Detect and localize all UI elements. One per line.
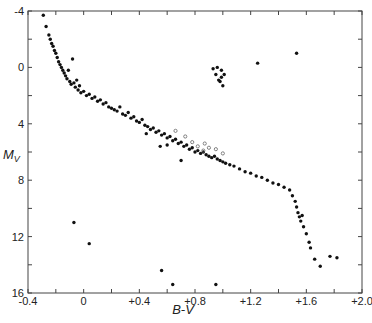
data-point xyxy=(99,98,102,101)
data-point xyxy=(266,179,269,182)
data-point xyxy=(152,126,155,129)
data-point xyxy=(47,33,50,36)
data-point xyxy=(71,57,74,60)
data-point xyxy=(260,176,263,179)
data-point xyxy=(185,143,188,146)
data-point xyxy=(224,162,227,165)
data-point xyxy=(277,183,280,186)
data-point xyxy=(196,149,199,152)
data-point xyxy=(127,111,130,114)
data-point xyxy=(302,225,305,228)
data-point xyxy=(44,25,47,28)
open-data-point xyxy=(196,145,199,148)
y-axis-title-m: M xyxy=(3,147,14,162)
y-tick-label: -4 xyxy=(14,5,24,17)
y-axis-title-sub: V xyxy=(14,154,21,164)
data-point xyxy=(146,125,149,128)
data-point xyxy=(160,269,163,272)
data-point xyxy=(232,164,235,167)
data-point xyxy=(51,45,54,48)
data-point xyxy=(220,76,223,79)
data-point xyxy=(294,200,297,203)
y-tick-label: 0 xyxy=(18,61,24,73)
x-tick-label: +2.0 xyxy=(351,295,372,307)
ticks: -0.40+0.4+0.8+1.2+1.6+2.0-40481216 xyxy=(12,5,372,307)
data-point xyxy=(296,211,299,214)
data-point xyxy=(54,52,57,55)
data-point xyxy=(335,256,338,259)
data-point xyxy=(74,85,77,88)
open-data-point xyxy=(207,146,210,149)
data-point xyxy=(282,186,285,189)
data-point xyxy=(213,155,216,158)
x-tick-label: 0 xyxy=(81,295,87,307)
data-point xyxy=(138,121,141,124)
data-point xyxy=(82,90,85,93)
data-point xyxy=(305,232,308,235)
data-point xyxy=(42,14,45,17)
y-tick-label: 16 xyxy=(12,287,24,299)
y-tick-label: 8 xyxy=(18,174,24,186)
data-point xyxy=(288,188,291,191)
data-point xyxy=(75,78,78,81)
data-point xyxy=(221,84,224,87)
data-point xyxy=(313,257,316,260)
data-point xyxy=(249,171,252,174)
x-tick-label: +1.6 xyxy=(295,295,317,307)
data-point xyxy=(309,246,312,249)
x-tick-label: +0.4 xyxy=(128,295,150,307)
data-point xyxy=(163,132,166,135)
data-point xyxy=(319,265,322,268)
data-point xyxy=(124,114,127,117)
data-point xyxy=(291,194,294,197)
data-point xyxy=(243,170,246,173)
data-point xyxy=(174,138,177,141)
data-point xyxy=(256,61,259,64)
data-point xyxy=(104,101,107,104)
data-point xyxy=(299,219,302,222)
open-data-point xyxy=(184,135,187,138)
y-tick-label: 12 xyxy=(12,231,24,243)
data-point xyxy=(159,145,162,148)
open-data-point xyxy=(203,142,206,145)
y-tick-label: 4 xyxy=(18,118,24,130)
data-point xyxy=(328,255,331,258)
data-point xyxy=(157,129,160,132)
data-point xyxy=(171,283,174,286)
data-point xyxy=(271,181,274,184)
open-data-point xyxy=(221,152,224,155)
data-point xyxy=(214,283,217,286)
open-data-point xyxy=(174,129,177,132)
data-point xyxy=(165,143,168,146)
data-point xyxy=(49,38,52,41)
data-point xyxy=(179,159,182,162)
y-axis-title: MV xyxy=(3,147,21,164)
data-point xyxy=(78,84,81,87)
data-point xyxy=(295,52,298,55)
data-point xyxy=(255,174,258,177)
data-point xyxy=(145,132,148,135)
data-point xyxy=(132,115,135,118)
data-points xyxy=(42,14,339,287)
data-point xyxy=(72,81,75,84)
data-point xyxy=(65,77,68,80)
data-point xyxy=(214,73,217,76)
data-point xyxy=(118,105,121,108)
data-point xyxy=(307,241,310,244)
data-point xyxy=(216,66,219,69)
data-point xyxy=(76,88,79,91)
data-point xyxy=(223,73,226,76)
data-point xyxy=(93,95,96,98)
data-point xyxy=(179,140,182,143)
x-axis-title: B-V xyxy=(172,302,195,317)
open-data-point xyxy=(214,148,217,151)
open-data-point xyxy=(191,141,194,144)
data-point xyxy=(218,80,221,83)
data-point xyxy=(72,221,75,224)
data-point xyxy=(168,135,171,138)
data-point xyxy=(67,69,70,72)
data-point xyxy=(220,69,223,72)
data-point xyxy=(211,67,214,70)
data-point xyxy=(140,118,143,121)
data-point xyxy=(300,214,303,217)
